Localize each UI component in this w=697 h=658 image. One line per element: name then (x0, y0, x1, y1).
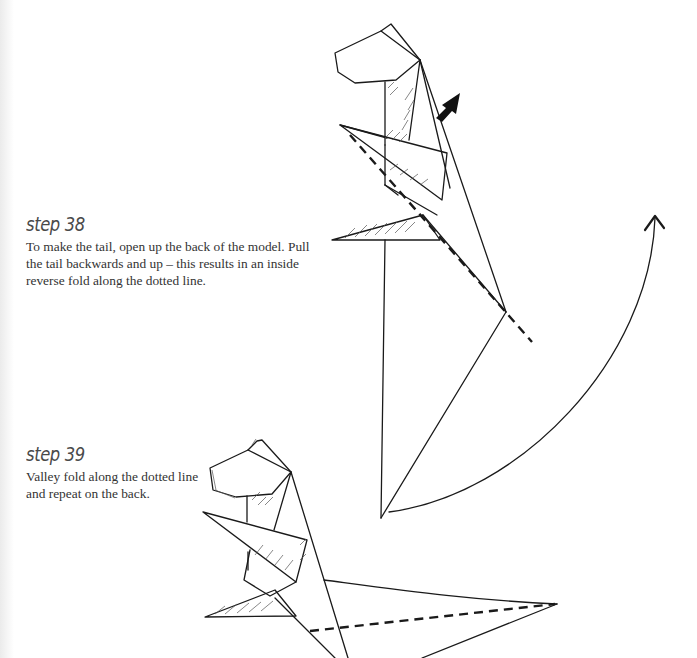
curved-arrow-icon (389, 218, 655, 512)
step-38-diagram (332, 24, 664, 518)
step-39-diagram (203, 439, 557, 658)
model-head (210, 450, 291, 497)
origami-diagrams (0, 0, 697, 658)
fold-line-dashed (310, 604, 555, 631)
push-arrow-icon (436, 93, 460, 122)
model-head (335, 31, 420, 83)
